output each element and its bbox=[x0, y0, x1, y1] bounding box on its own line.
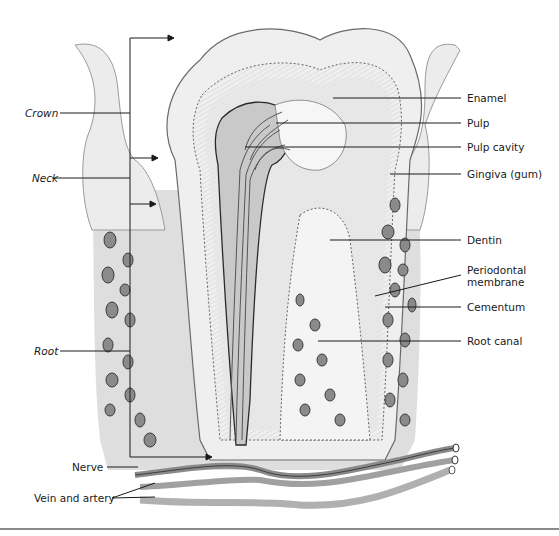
label-periodontal-line2: membrane bbox=[467, 276, 524, 288]
label-neck: Neck bbox=[32, 172, 58, 184]
label-crown: Crown bbox=[25, 107, 58, 119]
label-root: Root bbox=[34, 345, 58, 357]
tooth bbox=[167, 29, 422, 460]
label-root-canal: Root canal bbox=[467, 335, 522, 347]
label-nerve: Nerve bbox=[72, 461, 103, 473]
label-cementum: Cementum bbox=[467, 301, 525, 313]
label-periodontal-line1: Periodontal bbox=[467, 264, 526, 276]
label-vein-artery: Vein and artery bbox=[34, 492, 115, 504]
label-enamel: Enamel bbox=[467, 92, 506, 104]
tooth-diagram: Crown Neck Root Enamel Pulp Pulp cavity … bbox=[0, 0, 559, 536]
page-divider bbox=[0, 528, 559, 530]
label-dentin: Dentin bbox=[467, 234, 502, 246]
label-gingiva: Gingiva (gum) bbox=[467, 168, 542, 180]
label-pulp: Pulp bbox=[467, 117, 489, 129]
label-pulp-cavity: Pulp cavity bbox=[467, 141, 524, 153]
